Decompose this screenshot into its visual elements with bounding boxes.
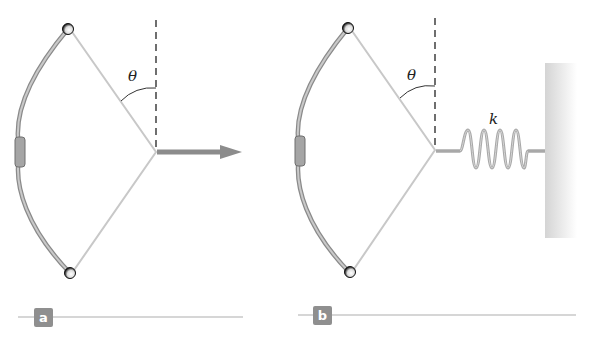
panel-b-label: b	[318, 308, 327, 323]
angle-arc-a	[121, 88, 156, 101]
bow-diagram-figure: θ a θ k	[0, 0, 600, 347]
spring-constant-label: k	[489, 110, 498, 128]
theta-label-a: θ	[128, 67, 137, 85]
bow-grip-b	[295, 136, 305, 166]
panel-a-label: a	[39, 310, 48, 325]
panel-a: θ a	[15, 20, 243, 327]
theta-label-b: θ	[407, 66, 416, 84]
angle-arc-b	[400, 86, 435, 98]
bow-grip-a	[15, 137, 25, 167]
bowstring-a	[70, 29, 156, 273]
panel-b: θ k b	[295, 18, 577, 325]
bow-limb-a	[18, 29, 71, 274]
bow-tip-top-a	[63, 24, 74, 35]
bow-tip-bottom-a	[65, 268, 76, 279]
bow-tip-top-b	[343, 23, 354, 34]
pull-arrow	[157, 145, 242, 159]
wall	[545, 63, 577, 238]
bow-limb-b	[298, 28, 350, 273]
bowstring-b	[350, 28, 435, 272]
bow-tip-bottom-b	[345, 267, 356, 278]
